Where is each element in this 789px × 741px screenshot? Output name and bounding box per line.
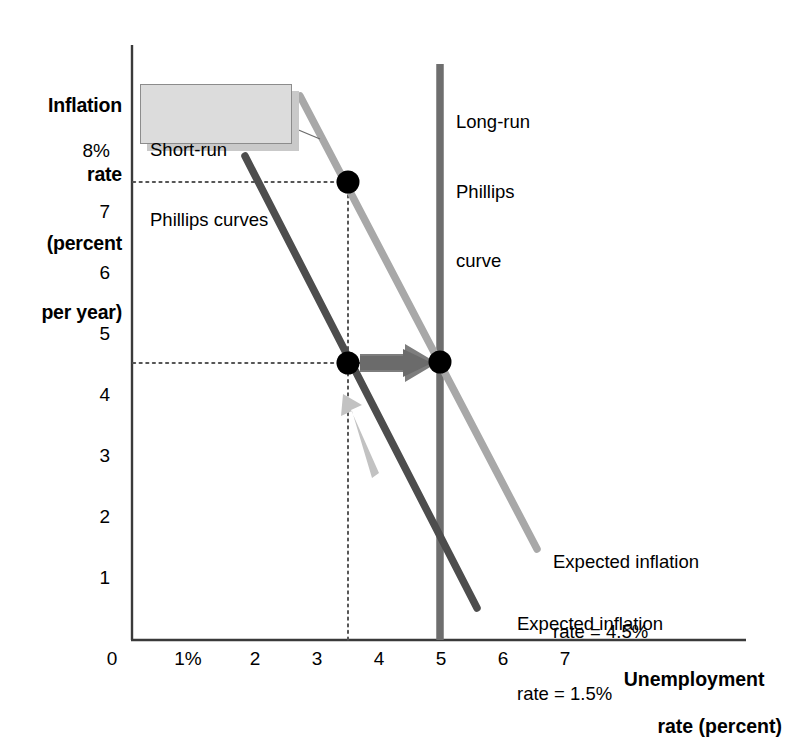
callout-text: Short-run Phillips curves	[150, 92, 268, 277]
x-tick-label-0: 0	[92, 648, 132, 670]
y-tick-label-2: 2	[66, 506, 110, 528]
x-tick-label-2: 2	[235, 648, 275, 670]
y-axis-title-line2: rate	[10, 163, 122, 186]
exp15-line1: Expected inflation	[517, 612, 663, 635]
long-run-phillips-curve-label: Long-run Phillips curve	[456, 64, 530, 318]
initial-equilibrium-point	[337, 352, 360, 375]
long-run-equilibrium-point	[429, 351, 452, 374]
lrpc-label-line1: Long-run	[456, 110, 530, 133]
y-tick-label-6: 6	[66, 262, 110, 284]
x-tick-label-3: 3	[297, 648, 337, 670]
y-tick-label-1: 1	[66, 567, 110, 589]
y-axis-title-line1: Inflation	[10, 94, 122, 117]
short-run-phillips-curves-callout: Short-run Phillips curves	[140, 84, 292, 144]
lrpc-label-line3: curve	[456, 249, 530, 272]
callout-line2: Phillips curves	[150, 208, 268, 231]
y-tick-label-3: 3	[66, 445, 110, 467]
x-tick-label-4: 4	[359, 648, 399, 670]
y-tick-label-8: 8%	[66, 140, 110, 162]
y-tick-label-5: 5	[66, 323, 110, 345]
rightward-adjustment-arrow	[360, 344, 437, 382]
y-axis-title-line3: (percent	[10, 232, 122, 255]
y-tick-label-4: 4	[66, 384, 110, 406]
y-axis-title-line4: per year)	[10, 301, 122, 324]
upper-equilibrium-point	[337, 171, 360, 194]
callout-line1: Short-run	[150, 138, 268, 161]
expected-inflation-15-label: Expected inflation rate = 1.5%	[517, 566, 663, 741]
x-tick-label-5: 5	[421, 648, 461, 670]
exp15-line2: rate = 1.5%	[517, 682, 663, 705]
lrpc-label-line2: Phillips	[456, 180, 530, 203]
y-tick-label-7: 7	[66, 201, 110, 223]
x-tick-label-1: 1%	[168, 648, 208, 670]
